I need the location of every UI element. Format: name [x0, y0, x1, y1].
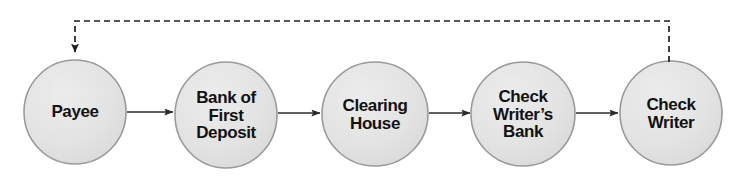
- node-check-writers-bank[interactable]: [471, 62, 575, 166]
- node-clearing-house[interactable]: [322, 62, 428, 166]
- node-check-writer-texture: [621, 62, 721, 164]
- feedback-connector-check-writer-to-payee: [75, 21, 669, 62]
- nodes-layer: [24, 60, 722, 168]
- node-bank-first-deposit[interactable]: [175, 62, 277, 168]
- node-check-writer[interactable]: [620, 61, 722, 165]
- node-clearing-house-texture: [323, 63, 427, 165]
- diagram-canvas: [0, 0, 740, 181]
- check-clearing-flow-diagram: Payee Bank of First Deposit Clearing Hou…: [0, 0, 740, 181]
- node-check-writers-bank-texture: [472, 63, 574, 165]
- feedback-layer: [75, 21, 669, 62]
- node-payee-texture: [25, 61, 125, 163]
- node-payee[interactable]: [24, 60, 126, 164]
- node-bank-first-deposit-texture: [176, 63, 276, 167]
